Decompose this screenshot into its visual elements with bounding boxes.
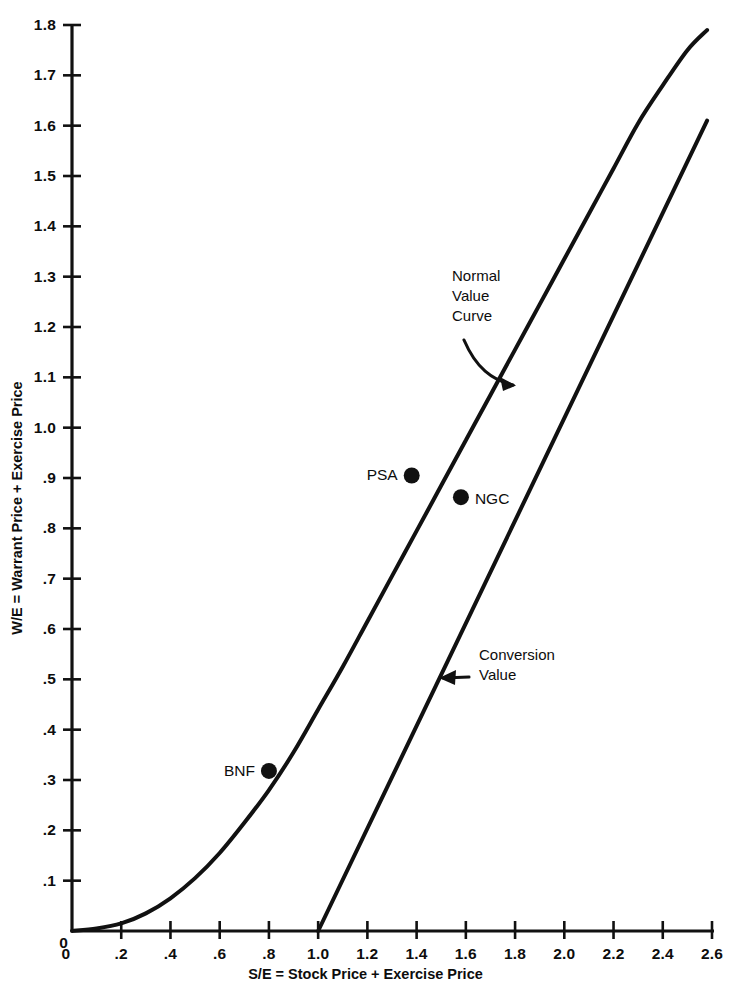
y-axis-tick-label: .3 — [43, 771, 56, 789]
x-axis-tick-label: 1.2 — [356, 945, 378, 963]
annotation-conversion-value: Conversion Value — [479, 645, 555, 685]
y-axis-tick-label: 1.5 — [34, 167, 56, 185]
data-point-marker — [453, 489, 469, 505]
x-axis-tick-label: .8 — [262, 945, 275, 963]
y-axis-tick-label: 1.6 — [34, 117, 56, 135]
x-axis-tick-label: 1.0 — [307, 945, 329, 963]
y-axis-tick-label: .2 — [43, 821, 56, 839]
y-axis-title: W/E = Warrant Price + Exercise Price — [9, 378, 25, 638]
normal-value-curve-arrow — [464, 340, 513, 385]
data-point-marker — [261, 763, 277, 779]
x-axis-tick-label: 0 — [62, 945, 71, 963]
annotation-arrows — [439, 340, 516, 685]
x-axis-tick-label: 2.2 — [602, 945, 624, 963]
x-axis-tick-label: .6 — [213, 945, 226, 963]
x-axis-tick-label: 2.4 — [652, 945, 674, 963]
y-axis-tick-label: .8 — [43, 519, 56, 537]
conversion-value-line — [318, 121, 707, 931]
x-axis-tick-label: .4 — [164, 945, 177, 963]
x-axis-title: S/E = Stock Price + Exercise Price — [0, 966, 731, 982]
y-axis-tick-label: .9 — [43, 469, 56, 487]
x-axis-tick-label: 1.4 — [406, 945, 428, 963]
warrant-value-chart: 0.1.2.3.4.5.6.7.8.91.01.11.21.31.41.51.6… — [0, 0, 731, 999]
annotation-normal-value-curve: Normal Value Curve — [452, 266, 500, 325]
x-axis-tick-label: 2.6 — [701, 945, 723, 963]
y-axis-tick-label: 1.8 — [34, 16, 56, 34]
y-axis-tick-label: 1.0 — [34, 419, 56, 437]
x-axis-tick-label: 1.8 — [504, 945, 526, 963]
y-axis-tick-label: 1.3 — [34, 268, 56, 286]
plot-canvas — [0, 0, 731, 999]
data-point-label-bnf: BNF — [224, 762, 255, 780]
y-axis-tick-label: 1.2 — [34, 318, 56, 336]
x-axis-tick-label: 1.6 — [455, 945, 477, 963]
y-axis-tick-label: .6 — [43, 620, 56, 638]
data-point-label-ngc: NGC — [475, 490, 509, 508]
y-axis-tick-label: .1 — [43, 872, 56, 890]
x-axis-tick-label: .2 — [115, 945, 128, 963]
y-axis-tick-label: 1.1 — [34, 368, 56, 386]
data-point-marker — [404, 467, 420, 483]
data-point-label-psa: PSA — [367, 466, 398, 484]
y-axis-tick-label: .7 — [43, 570, 56, 588]
y-axis-tick-label: .4 — [43, 721, 56, 739]
y-axis-tick-label: 1.7 — [34, 66, 56, 84]
y-axis-tick-label: 1.4 — [34, 217, 56, 235]
y-axis-tick-label: .5 — [43, 670, 56, 688]
x-axis-tick-label: 2.0 — [553, 945, 575, 963]
